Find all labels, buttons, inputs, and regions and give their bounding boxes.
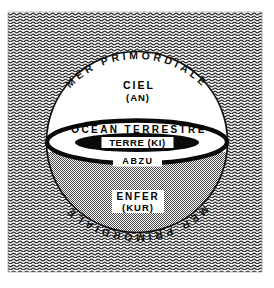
abzu-label: ABZU [122,156,153,166]
sky-sublabel: (AN) [126,92,150,103]
earth-label: TERRE (KI) [109,137,166,148]
ocean-label: OCÉAN TERRESTRE [71,123,206,135]
netherworld-label: ENFER [117,191,160,202]
netherworld-sublabel: (KUR) [122,202,154,213]
cosmology-diagram: MER PRIMORDIALE MER PRIMORDIALE CIEL (AN… [0,0,274,288]
cosmos-figure-canvas: MER PRIMORDIALE MER PRIMORDIALE CIEL (AN… [0,0,274,288]
sky-label: CIEL [123,79,155,91]
netherworld-label-group: ENFER (KUR) [112,190,164,213]
earth-label-group: TERRE (KI) [101,137,174,149]
abzu-label-group: ABZU [113,156,162,167]
